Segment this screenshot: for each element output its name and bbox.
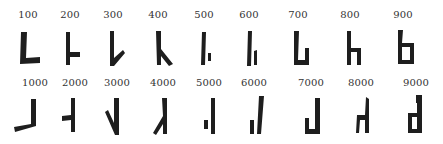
- label-2000: 2000: [62, 77, 88, 88]
- label-6000: 6000: [241, 77, 267, 88]
- label-100: 100: [18, 9, 38, 20]
- label-400: 400: [148, 9, 168, 20]
- label-600: 600: [239, 9, 259, 20]
- glyph-800-icon: [345, 31, 365, 67]
- label-500: 500: [194, 9, 214, 20]
- glyph-8000-icon: [354, 97, 372, 135]
- glyph-300-icon: [107, 31, 127, 67]
- glyph-700-icon: [292, 31, 312, 67]
- glyph-4000-icon: [152, 98, 170, 136]
- label-800: 800: [340, 9, 360, 20]
- glyph-400-icon: [153, 31, 175, 67]
- glyph-5000-icon: [203, 98, 217, 136]
- label-8000: 8000: [348, 77, 374, 88]
- glyph-9000-icon: [406, 95, 426, 135]
- label-3000: 3000: [104, 77, 130, 88]
- glyph-200-icon: [63, 32, 83, 66]
- label-300: 300: [103, 9, 123, 20]
- glyph-100-icon: [18, 32, 42, 66]
- label-7000: 7000: [298, 77, 324, 88]
- label-1000: 1000: [22, 77, 48, 88]
- label-700: 700: [288, 9, 308, 20]
- label-9000: 9000: [403, 77, 429, 88]
- glyph-500-icon: [199, 32, 215, 66]
- glyph-600-icon: [245, 31, 261, 67]
- label-900: 900: [393, 9, 413, 20]
- glyph-6000-icon: [249, 96, 265, 136]
- label-200: 200: [60, 9, 80, 20]
- label-4000: 4000: [150, 77, 176, 88]
- label-5000: 5000: [196, 77, 222, 88]
- glyph-2000-icon: [60, 98, 78, 134]
- glyph-900-icon: [396, 30, 416, 66]
- glyph-7000-icon: [303, 98, 323, 136]
- glyph-3000-icon: [104, 98, 122, 136]
- glyph-1000-icon: [13, 99, 39, 135]
